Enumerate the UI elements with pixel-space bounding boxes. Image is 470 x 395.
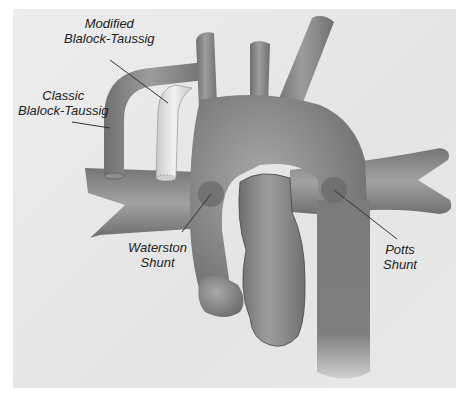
label-line: Waterston xyxy=(128,240,187,255)
label-line: Modified xyxy=(64,16,155,31)
label-line: Blalock-Taussig xyxy=(64,31,155,46)
label-line: Shunt xyxy=(128,255,187,270)
label-line: Blalock-Taussig xyxy=(18,103,109,118)
classic-bt-shunt xyxy=(104,62,205,179)
heart-vessels-illustration xyxy=(0,0,470,395)
label-classic-blalock-taussig: Classic Blalock-Taussig xyxy=(18,88,109,118)
label-line: Potts xyxy=(383,242,417,257)
left-pulmonary-artery xyxy=(85,168,205,238)
descending-aorta xyxy=(317,200,370,379)
label-line: Shunt xyxy=(383,257,417,272)
label-line: Classic xyxy=(18,88,109,103)
modified-bt-graft xyxy=(156,85,192,181)
label-potts-shunt: Potts Shunt xyxy=(383,242,417,272)
label-waterston-shunt: Waterston Shunt xyxy=(128,240,187,270)
label-modified-blalock-taussig: Modified Blalock-Taussig xyxy=(64,16,155,46)
ventricles xyxy=(198,276,243,317)
